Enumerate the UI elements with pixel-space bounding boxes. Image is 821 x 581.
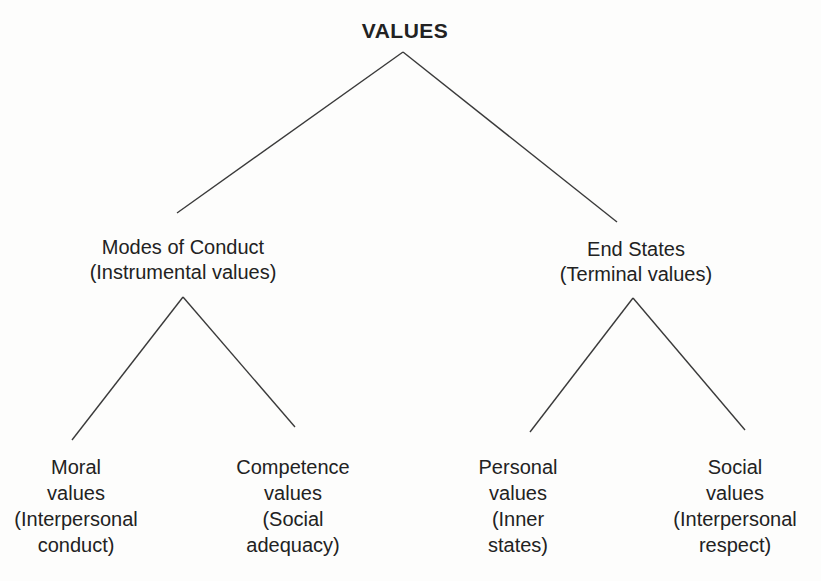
node-social-values: Social values (Interpersonal respect) — [673, 454, 796, 558]
node-end-states-sublabel: (Terminal values) — [560, 262, 712, 287]
node-social-values-line: respect) — [673, 532, 796, 558]
node-personal-values: Personal values (Inner states) — [479, 454, 558, 558]
edge-values-to-end-states — [403, 52, 617, 222]
node-competence-values-line: adequacy) — [236, 532, 349, 558]
node-end-states-label: End States — [560, 237, 712, 262]
node-moral-values-line: (Interpersonal — [14, 506, 137, 532]
node-end-states: End States (Terminal values) — [560, 237, 712, 287]
node-competence-values-line: (Social — [236, 506, 349, 532]
node-social-values-line: (Interpersonal — [673, 506, 796, 532]
node-modes-of-conduct: Modes of Conduct (Instrumental values) — [90, 235, 277, 285]
node-competence-values-line: values — [236, 480, 349, 506]
edge-modes-to-moral-values — [72, 297, 183, 440]
node-personal-values-line: Personal — [479, 454, 558, 480]
node-moral-values-line: Moral — [14, 454, 137, 480]
node-modes-of-conduct-label: Modes of Conduct — [90, 235, 277, 260]
node-moral-values-line: conduct) — [14, 532, 137, 558]
node-values: VALUES — [362, 18, 449, 44]
values-tree-diagram: VALUES Modes of Conduct (Instrumental va… — [0, 0, 821, 581]
edge-values-to-modes-of-conduct — [177, 52, 403, 213]
node-modes-of-conduct-sublabel: (Instrumental values) — [90, 260, 277, 285]
node-values-label: VALUES — [362, 18, 449, 44]
node-competence-values: Competence values (Social adequacy) — [236, 454, 349, 558]
node-social-values-line: Social — [673, 454, 796, 480]
node-moral-values-line: values — [14, 480, 137, 506]
node-social-values-line: values — [673, 480, 796, 506]
node-personal-values-line: states) — [479, 532, 558, 558]
node-personal-values-line: values — [479, 480, 558, 506]
edge-modes-to-competence-values — [183, 297, 295, 427]
edge-endstates-to-social-values — [633, 298, 745, 430]
edge-endstates-to-personal-values — [530, 298, 633, 432]
node-personal-values-line: (Inner — [479, 506, 558, 532]
node-competence-values-line: Competence — [236, 454, 349, 480]
node-moral-values: Moral values (Interpersonal conduct) — [14, 454, 137, 558]
